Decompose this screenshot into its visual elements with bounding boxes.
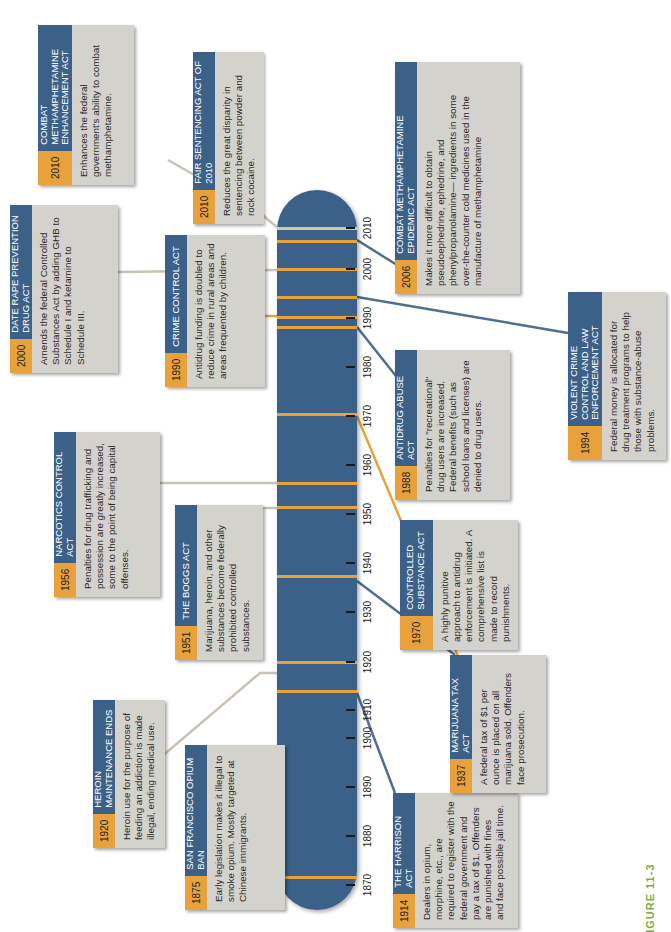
event-year: 2010 bbox=[38, 151, 72, 185]
connector-1994 bbox=[357, 297, 568, 333]
marker-1951 bbox=[277, 506, 357, 509]
tick-1880 bbox=[346, 835, 355, 837]
event-year: 1994 bbox=[568, 426, 602, 460]
marker-1994 bbox=[277, 296, 357, 299]
axis-label-1880: 1880 bbox=[357, 816, 377, 856]
marker-1988 bbox=[277, 326, 357, 329]
event-title: HEROIN MAINTENANCE ENDS bbox=[93, 700, 115, 814]
event-year: 1937 bbox=[450, 759, 472, 793]
event-body: A highly punitive approach to antidrug e… bbox=[433, 520, 518, 650]
event-title: SAN FRANCISCO OPIUM BAN bbox=[185, 745, 207, 876]
event-body: Antidrug funding is doubled to reduce cr… bbox=[187, 235, 265, 387]
tick-1890 bbox=[346, 786, 355, 788]
event-year: 1875 bbox=[185, 876, 207, 910]
event-body: A federal tax of $1 per ounce is placed … bbox=[472, 655, 546, 793]
event-card-2006: 2006 COMBAT METHAMPHETAMINE EPIDEMIC ACT… bbox=[395, 62, 520, 294]
event-title: NARCOTICS CONTROL ACT bbox=[54, 432, 76, 563]
event-card-1951: 1951 THE BOGGS ACT Marijuana, heroin, an… bbox=[175, 505, 263, 660]
marker-2000 bbox=[277, 268, 357, 271]
marker-1956 bbox=[277, 482, 357, 485]
event-card-1994: 1994 VIOLENT CRIME CONTROL AND LAW ENFOR… bbox=[568, 292, 666, 460]
event-title: CRIME CONTROL ACT bbox=[165, 235, 187, 353]
event-year: 2006 bbox=[395, 260, 417, 294]
marker-2006 bbox=[277, 240, 357, 243]
axis-label-1950: 1950 bbox=[357, 494, 377, 534]
marker-1937 bbox=[277, 575, 357, 578]
event-card-1914: 1914 THE HARRISON ACT Dealers in opium, … bbox=[393, 793, 518, 928]
tick-1940 bbox=[346, 562, 355, 564]
event-body: Federal money is allocated for drug trea… bbox=[602, 292, 666, 460]
axis-label-1870: 1870 bbox=[357, 865, 377, 905]
axis-label-2010: 2010 bbox=[357, 208, 377, 248]
tick-1970 bbox=[346, 415, 355, 417]
event-year: 2000 bbox=[10, 339, 32, 373]
axis-label-1990: 1990 bbox=[357, 298, 377, 338]
tick-1920 bbox=[346, 661, 355, 663]
tick-2010 bbox=[346, 227, 355, 229]
event-card-1875: 1875 SAN FRANCISCO OPIUM BAN Early legis… bbox=[185, 745, 285, 910]
event-card-2000: 2000 DATE RAPE PREVENTION DRUG ACT Amend… bbox=[10, 205, 118, 373]
event-body: Amends the federal Controlled Substances… bbox=[32, 205, 118, 373]
tick-1990 bbox=[346, 317, 355, 319]
axis-label-1910: 1910 bbox=[357, 690, 377, 730]
event-title: DATE RAPE PREVENTION DRUG ACT bbox=[10, 205, 32, 339]
event-title: THE HARRISON ACT bbox=[393, 793, 415, 894]
event-body: Penalties for "recreational" drug users … bbox=[417, 350, 510, 500]
event-year: 1956 bbox=[54, 563, 76, 597]
marker-1990 bbox=[277, 316, 357, 319]
event-body: Heroin use for the purpose of feeding an… bbox=[115, 700, 165, 848]
event-year: 1914 bbox=[393, 894, 415, 928]
marker-1875 bbox=[277, 876, 357, 879]
axis-label-1920: 1920 bbox=[357, 642, 377, 682]
event-title: COMBAT METHAMPHETAMINE EPIDEMIC ACT bbox=[395, 62, 417, 260]
tick-1910 bbox=[346, 709, 355, 711]
marker-1970 bbox=[277, 413, 357, 416]
axis-label-1940: 1940 bbox=[357, 543, 377, 583]
event-card-2010-meth: 2010 COMBAT METHAMPHETAMINE ENHANCEMENT … bbox=[38, 25, 134, 185]
event-title: CONTROLLED SUBSTANCE ACT bbox=[400, 520, 433, 616]
event-body: Enhances the federal government's abilit… bbox=[72, 25, 134, 185]
marker-2010 bbox=[277, 227, 357, 230]
event-body: Dealers in opium, morphine, etc., are re… bbox=[415, 793, 518, 928]
event-year: 1970 bbox=[400, 616, 433, 650]
tick-2000 bbox=[346, 268, 355, 270]
axis-label-1930: 1930 bbox=[357, 592, 377, 632]
event-year: 1988 bbox=[395, 466, 417, 500]
event-body: Early legislation makes it illegal to sm… bbox=[207, 745, 285, 910]
event-card-1970: 1970 CONTROLLED SUBSTANCE ACT A highly p… bbox=[400, 520, 518, 650]
event-card-2010-fair: 2010 FAIR SENTENCING ACT OF 2010 Reduces… bbox=[193, 52, 263, 224]
event-year: 1920 bbox=[93, 814, 115, 848]
axis-label-1980: 1980 bbox=[357, 347, 377, 387]
event-title: ANTIDRUG ABUSE ACT bbox=[395, 350, 417, 466]
event-body: Makes it more difficult to obtain pseudo… bbox=[417, 62, 520, 294]
tick-1960 bbox=[346, 464, 355, 466]
event-year: 1951 bbox=[175, 626, 197, 660]
event-card-1920: 1920 HEROIN MAINTENANCE ENDS Heroin use … bbox=[93, 700, 165, 848]
marker-1914 bbox=[277, 690, 357, 693]
axis-label-1970: 1970 bbox=[357, 396, 377, 436]
tick-1900 bbox=[346, 737, 355, 739]
tick-1930 bbox=[346, 611, 355, 613]
event-body: Penalties for drug trafficking and posse… bbox=[76, 432, 160, 597]
figure-label: FIGURE 11-3 bbox=[640, 872, 660, 932]
axis-label-2000: 2000 bbox=[357, 249, 377, 289]
event-title: MARIJUANA TAX ACT bbox=[450, 655, 472, 759]
marker-1920 bbox=[277, 661, 357, 664]
event-card-1937: 1937 MARIJUANA TAX ACT A federal tax of … bbox=[450, 655, 546, 793]
event-title: VIOLENT CRIME CONTROL AND LAW ENFORCEMEN… bbox=[568, 292, 602, 426]
event-card-1988: 1988 ANTIDRUG ABUSE ACT Penalties for "r… bbox=[395, 350, 510, 500]
tick-1980 bbox=[346, 366, 355, 368]
event-body: Reduces the great disparity in sentencin… bbox=[215, 52, 264, 224]
event-card-1990: 1990 CRIME CONTROL ACT Antidrug funding … bbox=[165, 235, 265, 387]
axis-label-1890: 1890 bbox=[357, 767, 377, 807]
event-card-1956: 1956 NARCOTICS CONTROL ACT Penalties for… bbox=[54, 432, 160, 597]
event-title: THE BOGGS ACT bbox=[175, 505, 197, 626]
event-title: COMBAT METHAMPHETAMINE ENHANCEMENT ACT bbox=[38, 25, 72, 151]
axis-label-1960: 1960 bbox=[357, 445, 377, 485]
tick-1950 bbox=[346, 513, 355, 515]
event-body: Marijuana, heroin, and other substances … bbox=[197, 505, 263, 660]
event-year: 2010 bbox=[193, 190, 215, 224]
tick-1870 bbox=[346, 884, 355, 886]
event-title: FAIR SENTENCING ACT OF 2010 bbox=[193, 52, 215, 190]
event-year: 1990 bbox=[165, 353, 187, 387]
